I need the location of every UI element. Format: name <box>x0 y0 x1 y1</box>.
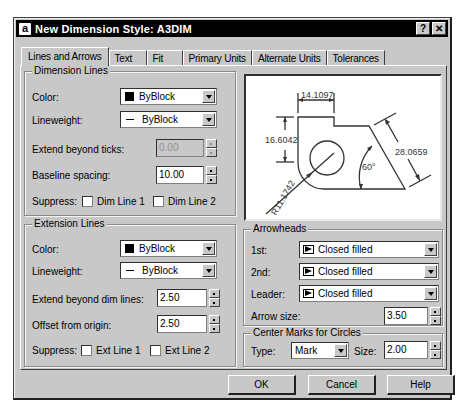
center-type-select[interactable]: Mark <box>291 342 349 359</box>
app-icon: a <box>19 23 31 35</box>
window-title: New Dimension Style: A3DIM <box>35 23 416 35</box>
closed-filled-arrow-icon <box>303 267 314 276</box>
ext-extend-spinner[interactable] <box>209 289 220 307</box>
spin-up-icon[interactable] <box>209 289 220 298</box>
chevron-down-icon[interactable] <box>202 242 215 255</box>
offset-origin-label: Offset from origin: <box>32 320 111 331</box>
help-icon[interactable]: ? <box>416 22 430 35</box>
first-arrow-select[interactable]: Closed filled <box>299 241 439 258</box>
extension-lines-group: Extension Lines Color: ByBlock Lineweigh… <box>24 224 236 367</box>
center-size-spinner[interactable] <box>430 341 441 359</box>
chevron-down-icon[interactable] <box>424 265 437 278</box>
ext-line2-label[interactable]: Ext Line 2 <box>165 345 209 356</box>
extension-lines-title: Extension Lines <box>32 218 107 229</box>
ext-color-select[interactable]: ByBlock <box>120 240 217 257</box>
first-arrow-value: Closed filled <box>318 244 424 255</box>
new-dimension-style-dialog: a New Dimension Style: A3DIM ? ✕ Lines a… <box>13 17 452 400</box>
preview-dim-top: 14.1097 <box>301 90 334 100</box>
title-bar[interactable]: a New Dimension Style: A3DIM ? ✕ <box>16 20 448 37</box>
tab-primary-units[interactable]: Primary Units <box>183 50 252 66</box>
spin-up-icon[interactable] <box>430 341 441 350</box>
dim-color-label: Color: <box>32 92 59 103</box>
preview-dim-radius: R11.1742 <box>269 179 297 217</box>
ext-lineweight-select[interactable]: ByBlock <box>120 262 217 279</box>
ext-lineweight-value: ByBlock <box>142 265 202 276</box>
tab-alternate-units[interactable]: Alternate Units <box>252 50 327 66</box>
dimension-preview: 14.1097 16.6042 28.0659 60° R11.1742 <box>244 74 442 221</box>
chevron-down-icon[interactable] <box>334 344 347 357</box>
dim-line2-checkbox[interactable] <box>153 196 164 207</box>
baseline-spacing-spinner[interactable] <box>206 166 217 184</box>
chevron-down-icon[interactable] <box>202 113 215 126</box>
closed-filled-arrow-icon <box>303 245 314 254</box>
ext-color-label: Color: <box>32 244 59 255</box>
spin-up-icon[interactable] <box>430 307 441 316</box>
center-size-label: Size: <box>354 346 376 357</box>
dim-line1-label[interactable]: Dim Line 1 <box>97 196 145 207</box>
second-arrow-value: Closed filled <box>318 266 424 277</box>
ext-line1-checkbox[interactable] <box>81 345 92 356</box>
color-swatch-icon <box>125 92 134 101</box>
help-button[interactable]: Help <box>387 375 455 395</box>
dim-line1-checkbox[interactable] <box>82 196 93 207</box>
center-type-label: Type: <box>251 346 275 357</box>
dim-extend-input[interactable]: 0.00 <box>156 139 204 157</box>
dimension-lines-title: Dimension Lines <box>32 65 110 76</box>
dim-lineweight-label: Lineweight: <box>32 115 83 126</box>
arrowheads-group: Arrowheads 1st: Closed filled 2nd: Close… <box>243 229 443 326</box>
cancel-button[interactable]: Cancel <box>308 375 376 395</box>
dim-line2-label[interactable]: Dim Line 2 <box>168 196 216 207</box>
chevron-down-icon[interactable] <box>202 264 215 277</box>
preview-dim-angle: 60° <box>362 162 376 172</box>
spin-down-icon[interactable] <box>209 298 220 307</box>
color-swatch-icon <box>125 244 134 253</box>
spin-down-icon[interactable] <box>206 175 217 184</box>
preview-drawing: 14.1097 16.6042 28.0659 60° R11.1742 <box>246 76 440 219</box>
dim-color-select[interactable]: ByBlock <box>120 88 217 105</box>
first-arrow-label: 1st: <box>251 245 267 256</box>
baseline-spacing-input[interactable]: 10.00 <box>156 166 204 184</box>
chevron-down-icon[interactable] <box>202 90 215 103</box>
ext-line1-label[interactable]: Ext Line 1 <box>96 345 140 356</box>
ext-extend-label: Extend beyond dim lines: <box>32 294 144 305</box>
dim-lineweight-select[interactable]: ByBlock <box>120 111 217 128</box>
spin-down-icon[interactable] <box>206 148 217 157</box>
leader-arrow-select[interactable]: Closed filled <box>299 285 439 302</box>
ext-lineweight-label: Lineweight: <box>32 266 83 277</box>
dim-extend-label: Extend beyond ticks: <box>32 144 124 155</box>
ext-suppress-label: Suppress: <box>32 345 77 356</box>
spin-down-icon[interactable] <box>430 316 441 325</box>
spin-up-icon[interactable] <box>206 139 217 148</box>
tab-strip: Lines and Arrows Text Fit Primary Units … <box>21 47 385 65</box>
close-icon[interactable]: ✕ <box>432 22 446 35</box>
chevron-down-icon[interactable] <box>424 287 437 300</box>
tab-tolerances[interactable]: Tolerances <box>327 50 385 66</box>
leader-arrow-value: Closed filled <box>318 288 424 299</box>
offset-origin-input[interactable]: 2.50 <box>157 315 207 333</box>
tab-lines-and-arrows[interactable]: Lines and Arrows <box>21 47 109 66</box>
preview-dim-right: 28.0659 <box>395 147 428 157</box>
arrow-size-spinner[interactable] <box>430 307 441 325</box>
spin-up-icon[interactable] <box>206 166 217 175</box>
spin-up-icon[interactable] <box>209 315 220 324</box>
second-arrow-select[interactable]: Closed filled <box>299 263 439 280</box>
dim-extend-spinner[interactable] <box>206 139 217 157</box>
dim-suppress-label: Suppress: <box>32 196 77 207</box>
ext-line2-checkbox[interactable] <box>150 345 161 356</box>
preview-dim-left: 16.6042 <box>265 135 298 145</box>
center-marks-title: Center Marks for Circles <box>251 327 363 338</box>
center-type-value: Mark <box>292 345 334 356</box>
center-marks-group: Center Marks for Circles Type: Mark Size… <box>243 333 443 367</box>
spin-down-icon[interactable] <box>209 324 220 333</box>
center-size-input[interactable]: 2.00 <box>384 341 428 359</box>
ext-color-value: ByBlock <box>139 243 202 254</box>
dim-color-value: ByBlock <box>139 91 202 102</box>
offset-origin-spinner[interactable] <box>209 315 220 333</box>
chevron-down-icon[interactable] <box>424 243 437 256</box>
arrow-size-input[interactable]: 3.50 <box>384 307 428 325</box>
tab-text[interactable]: Text <box>109 50 147 66</box>
ext-extend-input[interactable]: 2.50 <box>157 289 207 307</box>
tab-fit[interactable]: Fit <box>147 50 183 66</box>
ok-button[interactable]: OK <box>228 375 296 395</box>
spin-down-icon[interactable] <box>430 350 441 359</box>
